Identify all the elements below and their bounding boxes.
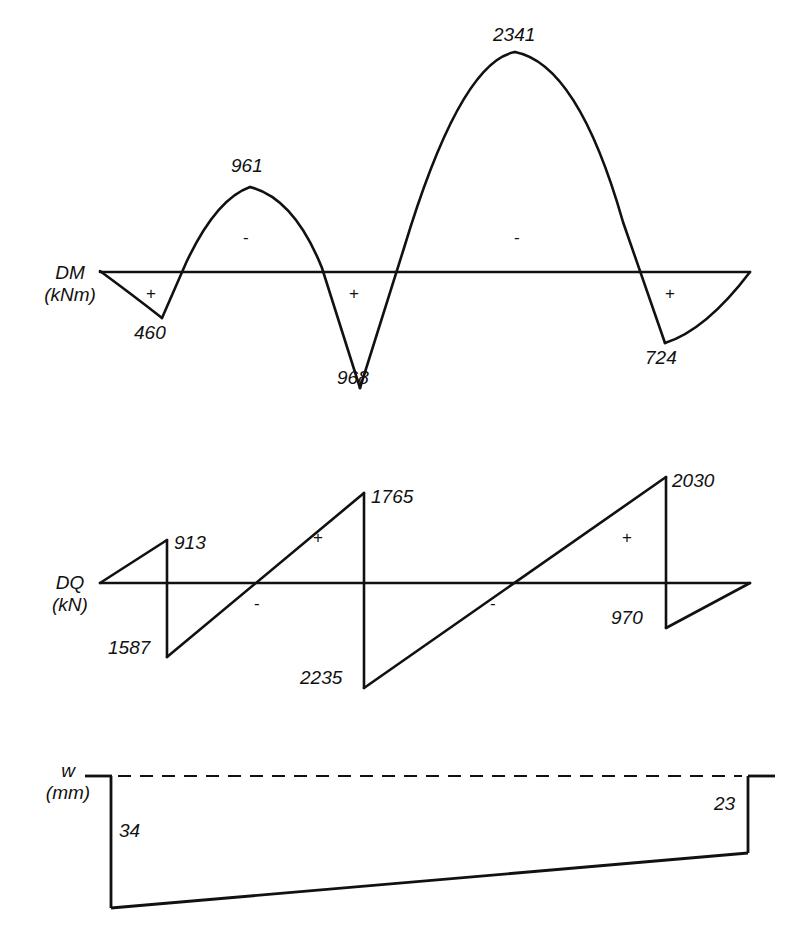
dm-value-724: 724 (645, 347, 677, 369)
dq-sign-positive-1: + (313, 528, 323, 548)
dm-curve-span1-fall (250, 187, 360, 388)
dm-label-unit: (kNm) (24, 284, 116, 306)
w-axis-label: w (mm) (22, 760, 114, 804)
w-deflected-shape (111, 853, 748, 908)
w-diagram-group (85, 776, 775, 908)
dq-sign-negative-1: - (254, 594, 260, 614)
dq-label-unit: (kN) (24, 594, 116, 616)
dq-value-2235: 2235 (300, 667, 342, 689)
dm-value-2341: 2341 (493, 24, 535, 46)
w-label-name: w (61, 760, 75, 781)
dq-axis-label: DQ (kN) (24, 572, 116, 616)
dm-sign-negative-1: - (243, 228, 249, 248)
dq-value-970: 970 (611, 607, 643, 629)
dm-sign-positive-2: + (349, 284, 359, 304)
dm-curve-right-end (665, 272, 750, 343)
dm-curve-span2-rise (360, 52, 515, 388)
dq-segment2-slope (167, 493, 364, 657)
dm-sign-negative-2: - (514, 228, 520, 248)
dm-sign-positive-3: + (665, 284, 675, 304)
dq-label-name: DQ (56, 572, 85, 593)
dq-diagram-group (100, 477, 750, 688)
dm-value-460: 460 (134, 322, 166, 344)
dm-value-961: 961 (231, 155, 263, 177)
dq-value-1587: 1587 (108, 637, 150, 659)
dm-value-968: 968 (337, 367, 369, 389)
dm-label-name: DM (55, 262, 85, 283)
dq-value-2030: 2030 (672, 470, 714, 492)
dm-sign-positive-1: + (146, 284, 156, 304)
w-value-34: 34 (119, 820, 140, 842)
dm-axis-label: DM (kNm) (24, 262, 116, 306)
dm-curve-span2-fall (515, 52, 665, 343)
dq-segment4-slope (666, 583, 750, 628)
dq-sign-negative-2: - (490, 594, 496, 614)
diagram-sheet: DM (kNm) 460 961 968 2341 724 + - + - + … (0, 0, 792, 943)
dq-value-913: 913 (174, 532, 206, 554)
dm-diagram-group (100, 52, 750, 388)
w-label-unit: (mm) (22, 782, 114, 804)
dq-sign-positive-2: + (622, 528, 632, 548)
w-value-23: 23 (714, 793, 735, 815)
dm-curve-span1-rise (162, 187, 250, 318)
dq-value-1765: 1765 (371, 486, 413, 508)
